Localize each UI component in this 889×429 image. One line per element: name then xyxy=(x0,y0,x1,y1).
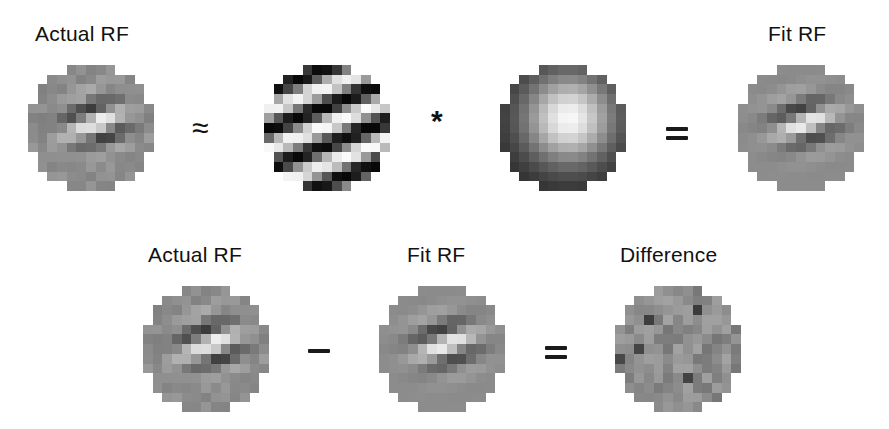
pixel-cell xyxy=(568,84,578,94)
pixel-cell xyxy=(835,123,845,133)
pixel-cell xyxy=(153,373,163,383)
pixel-cell xyxy=(654,383,664,393)
pixel-cell xyxy=(634,402,644,412)
pixel-cell xyxy=(673,286,683,296)
pixel-cell xyxy=(250,383,260,393)
pixel-cell xyxy=(230,296,240,306)
pixel-cell xyxy=(500,152,510,162)
pixel-cell xyxy=(342,75,352,85)
pixel-cell xyxy=(825,65,835,75)
pixel-cell xyxy=(519,181,529,191)
pixel-cell xyxy=(457,315,467,325)
pixel-cell xyxy=(702,393,712,403)
pixel-cell xyxy=(500,133,510,143)
pixel-cell xyxy=(135,84,145,94)
pixel-cell xyxy=(259,325,269,335)
pixel-cell xyxy=(644,383,654,393)
pixel-cell xyxy=(38,65,48,75)
pixel-cell xyxy=(427,402,437,412)
pixel-cell xyxy=(135,181,145,191)
pixel-cell xyxy=(539,104,549,114)
pixel-cell xyxy=(332,75,342,85)
pixel-cell xyxy=(57,172,67,182)
pixel-cell xyxy=(191,296,201,306)
pixel-cell xyxy=(693,296,703,306)
pixel-cell xyxy=(38,75,48,85)
pixel-cell xyxy=(757,172,767,182)
pixel-cell xyxy=(201,286,211,296)
pixel-cell xyxy=(654,393,664,403)
pixel-cell xyxy=(625,364,635,374)
pixel-cell xyxy=(854,123,864,133)
pixel-cell xyxy=(607,143,617,153)
pixel-cell xyxy=(437,305,447,315)
pixel-cell xyxy=(845,143,855,153)
pixel-cell xyxy=(201,393,211,403)
pixel-cell xyxy=(67,113,77,123)
pixel-cell xyxy=(379,373,389,383)
pixel-cell xyxy=(500,94,510,104)
pixel-cell xyxy=(845,133,855,143)
pixel-cell xyxy=(466,373,476,383)
pixel-cell xyxy=(568,94,578,104)
pixel-cell xyxy=(162,402,172,412)
pixel-cell xyxy=(427,305,437,315)
pixel-cell xyxy=(283,65,293,75)
pixel-cell xyxy=(683,373,693,383)
pixel-cell xyxy=(634,315,644,325)
pixel-cell xyxy=(332,94,342,104)
pixel-cell xyxy=(654,364,664,374)
pixel-cell xyxy=(683,344,693,354)
pixel-cell xyxy=(332,181,342,191)
pixel-cell xyxy=(274,84,284,94)
pixel-cell xyxy=(322,75,332,85)
pixel-cell xyxy=(380,152,390,162)
pixel-cell xyxy=(587,172,597,182)
pixel-cell xyxy=(437,354,447,364)
pixel-cell xyxy=(264,113,274,123)
pixel-cell xyxy=(379,354,389,364)
pixel-cell xyxy=(786,84,796,94)
pixel-cell xyxy=(568,65,578,75)
pixel-cell xyxy=(182,402,192,412)
pixel-cell xyxy=(757,133,767,143)
pixel-cell xyxy=(548,172,558,182)
pixel-cell xyxy=(230,325,240,335)
pixel-cell xyxy=(786,75,796,85)
pixel-cell xyxy=(398,296,408,306)
pixel-cell xyxy=(693,364,703,374)
pixel-cell xyxy=(806,172,816,182)
pixel-cell xyxy=(125,152,135,162)
pixel-cell xyxy=(361,162,371,172)
pixel-cell xyxy=(427,383,437,393)
pixel-cell xyxy=(28,104,38,114)
pixel-cell xyxy=(519,162,529,172)
pixel-cell xyxy=(437,334,447,344)
pixel-cell xyxy=(293,143,303,153)
pixel-cell xyxy=(342,84,352,94)
pixel-cell xyxy=(500,181,510,191)
pixel-cell xyxy=(693,315,703,325)
pixel-cell xyxy=(240,373,250,383)
pixel-cell xyxy=(457,373,467,383)
pixel-cell xyxy=(427,344,437,354)
pixel-cell xyxy=(447,344,457,354)
pixel-cell xyxy=(767,113,777,123)
pixel-cell xyxy=(240,305,250,315)
pixel-cell xyxy=(702,354,712,364)
pixel-cell xyxy=(418,383,428,393)
pixel-cell xyxy=(558,133,568,143)
pixel-cell xyxy=(486,305,496,315)
pixel-cell xyxy=(597,152,607,162)
pixel-cell xyxy=(854,143,864,153)
pixel-cell xyxy=(283,143,293,153)
pixel-cell xyxy=(162,325,172,335)
pixel-cell xyxy=(796,143,806,153)
pixel-cell xyxy=(250,393,260,403)
pixel-cell xyxy=(500,65,510,75)
pixel-cell xyxy=(351,94,361,104)
pixel-cell xyxy=(379,286,389,296)
pixel-cell xyxy=(371,113,381,123)
pixel-cell xyxy=(398,393,408,403)
pixel-cell xyxy=(182,354,192,364)
